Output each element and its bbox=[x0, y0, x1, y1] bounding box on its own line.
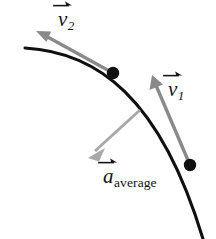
physics-diagram: v2 v1 aaverage bbox=[0, 0, 216, 239]
acceleration-vector-average bbox=[88, 110, 140, 162]
v1-subscript: 1 bbox=[178, 88, 185, 103]
v2-arrowhead bbox=[36, 31, 51, 42]
a-average-symbol: a bbox=[103, 166, 114, 187]
v2-symbol: v bbox=[58, 9, 67, 30]
v2-shaft bbox=[44, 35, 113, 73]
a-average-shaft bbox=[95, 110, 140, 151]
point-marker-2 bbox=[107, 67, 119, 79]
label-v2: v2 bbox=[58, 9, 74, 32]
a-average-subscript: average bbox=[114, 175, 157, 190]
point-marker-1 bbox=[184, 159, 196, 171]
v1-symbol: v bbox=[168, 79, 177, 100]
diagram-canvas bbox=[0, 0, 216, 239]
v2-subscript: 2 bbox=[68, 18, 75, 33]
label-v1: v1 bbox=[168, 79, 184, 102]
label-a-average: aaverage bbox=[103, 166, 157, 190]
